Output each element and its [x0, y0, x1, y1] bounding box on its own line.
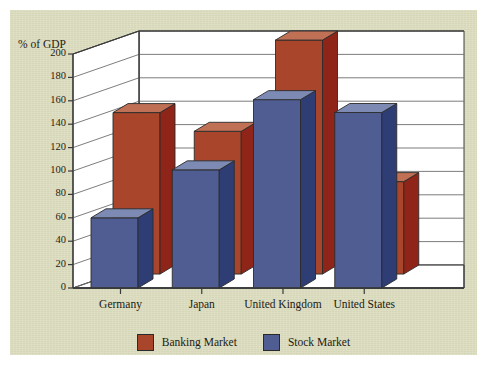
chart-screenshot: % of GDP 020406080100120140160180200 Ger… — [0, 0, 487, 372]
x-axis-category-label: United States — [309, 298, 419, 310]
y-axis-tick-label: 0 — [26, 281, 66, 292]
y-axis-tick-label: 60 — [26, 211, 66, 222]
legend-color-swatch — [263, 334, 280, 351]
y-axis-tick-label: 120 — [26, 141, 66, 152]
chart-legend: Banking MarketStock Market — [10, 330, 477, 354]
legend-color-swatch — [137, 334, 154, 351]
y-axis-tick-label: 20 — [26, 258, 66, 269]
legend-item: Banking Market — [137, 334, 237, 351]
y-axis-tick-label: 140 — [26, 117, 66, 128]
legend-label: Stock Market — [288, 336, 350, 348]
y-axis-tick-label: 180 — [26, 70, 66, 81]
y-axis-tick-label: 40 — [26, 234, 66, 245]
bar-chart-3d — [0, 0, 487, 372]
y-axis-tick-label: 160 — [26, 94, 66, 105]
legend-label: Banking Market — [162, 336, 237, 348]
y-axis-tick-label: 200 — [26, 47, 66, 58]
legend-item: Stock Market — [263, 334, 350, 351]
y-axis-tick-label: 100 — [26, 164, 66, 175]
y-axis-tick-label: 80 — [26, 187, 66, 198]
